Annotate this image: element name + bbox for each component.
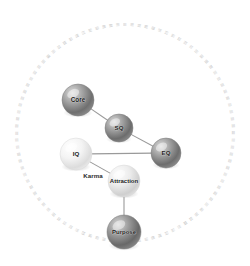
- ring-tick: ≡: [15, 152, 23, 157]
- ring-tick: ≡: [80, 29, 86, 37]
- ring-tick: ≡: [108, 21, 113, 28]
- node-label-eq: EQ: [162, 149, 171, 156]
- ring-tick: ≡: [137, 21, 142, 28]
- ring-tick: ≡: [187, 215, 194, 223]
- ring-tick: ≡: [188, 43, 195, 51]
- node-label-purpose: Purpose: [112, 229, 137, 235]
- ring-tick: ≡: [230, 131, 237, 135]
- ring-tick: ≡: [80, 229, 86, 237]
- node-label-iq: IQ: [73, 150, 80, 157]
- ring-tick: ≡: [94, 234, 100, 242]
- ring-tick: ≡: [13, 124, 20, 128]
- ring-tick: ≡: [198, 206, 206, 214]
- ring-tick: ≡: [198, 52, 206, 60]
- ring-tick: ≡: [21, 171, 29, 177]
- node-purpose[interactable]: Purpose: [107, 215, 141, 251]
- ring-tick: ≡: [101, 23, 106, 31]
- ring-tick: ≡: [87, 26, 93, 34]
- edge-label-karma: Karma: [83, 172, 103, 179]
- ring-tick: ≡: [123, 21, 127, 28]
- ring-tick: ≡: [157, 232, 163, 240]
- node-label-core: Core: [71, 96, 86, 103]
- ring-tick: ≡: [27, 184, 35, 191]
- ring-tick: ≡: [61, 39, 68, 47]
- ring-tick: ≡: [13, 131, 20, 135]
- ring-tick: ≡: [15, 109, 23, 114]
- ring-tick: ≡: [18, 165, 26, 171]
- ring-tick: ≡: [203, 201, 211, 209]
- ring-tick: ≡: [144, 23, 149, 31]
- ring-tick: ≡: [228, 152, 236, 157]
- ring-tick: ≡: [67, 223, 74, 231]
- ring-tick: ≡: [176, 223, 183, 231]
- ring-tick: ≡: [224, 95, 232, 101]
- ring-tick: ≡: [182, 219, 189, 227]
- ring-tick: ≡: [116, 21, 120, 28]
- ring-tick: ≡: [44, 206, 52, 214]
- ring-tick: ≡: [27, 75, 35, 82]
- ring-tick: ≡: [94, 24, 100, 32]
- node-label-attraction: Attraction: [110, 178, 139, 184]
- node-core[interactable]: Core: [62, 84, 94, 118]
- ring-tick: ≡: [211, 69, 219, 76]
- ring-tick: ≡: [157, 26, 163, 34]
- ring-tick: ≡: [170, 31, 177, 39]
- ring-tick: ≡: [230, 124, 237, 128]
- edge-iq-eq: [90, 153, 153, 154]
- ring-tick: ≡: [150, 234, 156, 242]
- ring-tick: ≡: [193, 47, 201, 55]
- ring-tick: ≡: [211, 190, 219, 197]
- ring-tick: ≡: [144, 236, 149, 244]
- node-layer: CoreSQEQIQAttractionPurpose: [60, 84, 181, 251]
- node-link-diagram: ≡≡≡≡≡≡≡≡≡≡≡≡≡≡≡≡≡≡≡≡≡≡≡≡≡≡≡≡≡≡≡≡≡≡≡≡≡≡≡≡…: [0, 0, 250, 266]
- ring-tick: ≡: [35, 195, 43, 202]
- ring-tick: ≡: [39, 57, 47, 65]
- diagram-canvas: ≡≡≡≡≡≡≡≡≡≡≡≡≡≡≡≡≡≡≡≡≡≡≡≡≡≡≡≡≡≡≡≡≡≡≡≡≡≡≡≡…: [0, 0, 250, 266]
- ring-tick: ≡: [23, 81, 31, 88]
- ring-tick: ≡: [31, 190, 39, 197]
- ring-tick: ≡: [163, 29, 169, 37]
- ring-tick: ≡: [215, 184, 223, 191]
- ring-tick: ≡: [207, 196, 215, 203]
- ring-tick: ≡: [21, 88, 29, 94]
- ring-tick: ≡: [182, 39, 189, 47]
- ring-tick: ≡: [193, 211, 201, 219]
- ring-tick: ≡: [170, 227, 177, 235]
- ring-tick: ≡: [35, 63, 43, 70]
- ring-tick: ≡: [23, 178, 31, 185]
- ring-tick: ≡: [55, 43, 62, 51]
- edge-label-layer: Karma: [83, 172, 103, 179]
- ring-tick: ≡: [176, 35, 183, 43]
- ring-tick: ≡: [39, 201, 47, 209]
- node-attraction[interactable]: Attraction: [108, 165, 140, 199]
- ring-tick: ≡: [13, 138, 20, 142]
- node-eq[interactable]: EQ: [151, 138, 181, 170]
- ring-tick: ≡: [226, 102, 234, 108]
- ring-tick: ≡: [226, 158, 234, 164]
- ring-tick: ≡: [229, 116, 236, 121]
- ring-tick: ≡: [67, 35, 74, 43]
- ring-tick: ≡: [13, 145, 20, 150]
- ring-tick: ≡: [207, 63, 215, 70]
- ring-tick: ≡: [44, 52, 52, 60]
- ring-tick: ≡: [163, 230, 169, 238]
- ring-tick: ≡: [61, 219, 68, 227]
- edge-sq-eq: [130, 134, 155, 147]
- ring-tick: ≡: [16, 158, 24, 164]
- ring-tick: ≡: [219, 82, 227, 89]
- node-sq[interactable]: SQ: [105, 114, 133, 143]
- ring-tick: ≡: [55, 215, 62, 223]
- ring-tick: ≡: [16, 102, 24, 108]
- ring-tick: ≡: [150, 24, 156, 32]
- ring-tick: ≡: [221, 171, 229, 177]
- ring-tick: ≡: [50, 47, 58, 55]
- ring-tick: ≡: [203, 58, 211, 66]
- ring-tick: ≡: [18, 95, 26, 101]
- ring-tick: ≡: [31, 69, 39, 76]
- node-label-sq: SQ: [115, 124, 124, 131]
- ring-tick: ≡: [87, 232, 93, 240]
- ring-tick: ≡: [130, 21, 134, 28]
- ring-tick: ≡: [229, 145, 236, 150]
- node-iq[interactable]: IQ: [60, 138, 92, 172]
- ring-tick: ≡: [230, 138, 237, 142]
